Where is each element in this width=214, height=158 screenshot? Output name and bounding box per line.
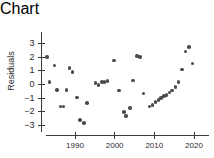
data-point [68,66,72,70]
data-point [55,88,59,92]
data-point [122,110,126,114]
data-point [138,55,142,59]
y-axis-title: Residuals [6,41,16,101]
y-tick-label-6: 3 [19,39,35,48]
y-tick-label-2: −1 [19,94,35,103]
data-point [174,85,178,89]
plot-area: −3−2−10123 1990200020102020 Residuals Ye… [0,18,214,158]
y-tick-label-5: 2 [19,53,35,62]
data-point [45,55,49,59]
y-tick-label-0: −3 [19,121,35,130]
y-axis [38,32,45,132]
data-point [124,114,128,118]
x-tick-label-1: 2000 [100,142,130,150]
data-point [131,79,135,83]
data-point [177,80,181,84]
x-tick-label-3: 2020 [179,142,209,150]
data-point [151,103,155,107]
data-point [97,83,101,87]
residuals-scatter-chart: −3−2−10123 1990200020102020 Residuals Ye… [0,18,214,158]
data-point [75,96,79,100]
y-tick-label-1: −2 [19,107,35,116]
data-point [48,80,52,84]
data-point [180,68,184,72]
x-axis [46,132,209,139]
x-tick-label-2: 2010 [139,142,169,150]
x-axis-title: Year [0,156,214,158]
y-tick-label-4: 1 [19,66,35,75]
data-point [187,45,191,49]
data-point [128,106,132,110]
y-tick-label-3: 0 [19,80,35,89]
data-point [82,121,86,125]
data-point [85,101,89,105]
x-tick-label-0: 1990 [60,142,90,150]
